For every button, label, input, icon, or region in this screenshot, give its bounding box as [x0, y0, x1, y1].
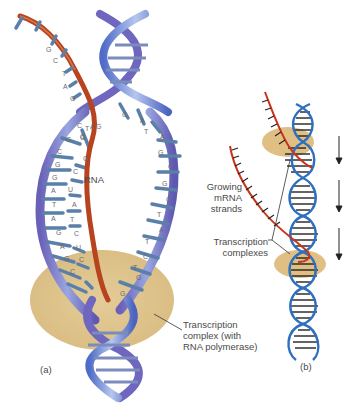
svg-text:G: G [46, 46, 51, 53]
svg-text:U: U [68, 186, 73, 193]
svg-text:G: G [83, 155, 88, 162]
growing-mrna-label-line-3: strands [200, 203, 242, 214]
svg-text:A: A [159, 226, 164, 233]
svg-text:G: G [96, 123, 101, 130]
svg-text:G: G [162, 180, 167, 187]
upper-dna-helix [80, 14, 168, 112]
complex-label-a-line-1: Transcription [183, 319, 257, 330]
svg-text:G: G [55, 161, 60, 168]
svg-text:A: A [160, 133, 165, 140]
svg-text:T: T [62, 70, 67, 77]
svg-text:T: T [144, 128, 149, 135]
transcription-complex-1 [262, 127, 314, 157]
transcription-complexes-label-line-2: complexes [204, 247, 268, 258]
svg-text:C: C [53, 57, 58, 64]
svg-text:G: G [52, 174, 57, 181]
svg-text:C: C [166, 196, 171, 203]
panel-a-label: (a) [40, 364, 52, 375]
svg-text:G: G [64, 255, 69, 262]
growing-mrna-label: Growing mRNA strands [200, 181, 242, 214]
transcription-diagram: G C T A G C C T G C G G A T A G A G C A … [0, 0, 360, 404]
svg-text:A: A [140, 117, 145, 124]
svg-text:G: G [136, 274, 141, 281]
svg-text:C: C [73, 168, 78, 175]
complexes-leader-lines [272, 160, 290, 254]
svg-text:T: T [70, 216, 75, 223]
svg-text:C: C [143, 253, 148, 260]
direction-arrows [336, 136, 342, 260]
complex-label-a: Transcription complex (with RNA polymera… [183, 319, 257, 352]
panel-b-label: (b) [300, 361, 312, 372]
svg-text:G: G [122, 111, 127, 118]
svg-text:A: A [90, 123, 95, 130]
svg-text:C: C [168, 163, 173, 170]
svg-text:T: T [157, 211, 162, 218]
svg-text:G: G [66, 136, 71, 143]
svg-text:G: G [80, 134, 85, 141]
svg-text:A: A [51, 215, 56, 222]
svg-text:C: C [74, 230, 79, 237]
svg-text:C: C [57, 148, 62, 155]
rna-base-letters: G C T A G [46, 46, 75, 102]
transcription-complexes-label: Transcription complexes [204, 236, 268, 258]
svg-text:A: A [51, 187, 56, 194]
svg-text:T: T [133, 264, 138, 271]
svg-text:A: A [60, 243, 65, 250]
svg-text:C: C [77, 122, 82, 129]
svg-text:A: A [63, 83, 68, 90]
svg-text:G: G [70, 95, 75, 102]
svg-text:T: T [52, 201, 57, 208]
transcription-complexes-label-line-1: Transcription [204, 236, 268, 247]
svg-text:U: U [76, 244, 81, 251]
svg-text:G: G [158, 149, 163, 156]
growing-mrna-label-line-2: mRNA [200, 192, 242, 203]
svg-text:C: C [79, 256, 84, 263]
complex-label-a-line-2: complex (with [183, 330, 257, 341]
svg-text:G: G [56, 229, 61, 236]
svg-text:G: G [120, 290, 125, 297]
growing-mrna-label-line-1: Growing [200, 181, 242, 192]
complex-label-a-line-3: RNA polymerase) [183, 341, 257, 352]
svg-text:C: C [70, 268, 75, 275]
svg-text:T: T [145, 238, 150, 245]
rna-label: RNA [84, 174, 104, 185]
panel-a: G C T A G C C T G C G G A T A G A G C A … [16, 14, 182, 398]
svg-text:A: A [72, 201, 77, 208]
